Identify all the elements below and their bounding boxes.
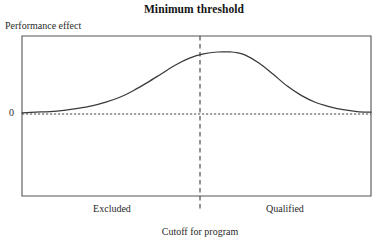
- region-label-qualified: Qualified: [245, 203, 325, 214]
- x-axis-label: Cutoff for program: [130, 226, 270, 237]
- performance-effect-curve: [22, 52, 371, 113]
- plot-area: [0, 0, 388, 250]
- plot-frame: [22, 36, 371, 196]
- region-label-excluded: Excluded: [72, 203, 152, 214]
- figure-container: Minimum threshold Performance effect 0 E…: [0, 0, 388, 250]
